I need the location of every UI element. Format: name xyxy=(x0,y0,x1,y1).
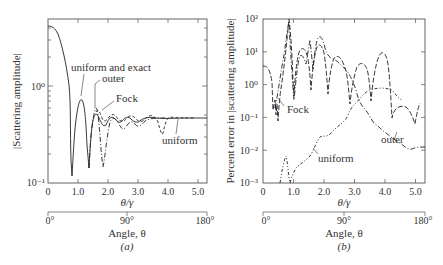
leader-line xyxy=(278,98,284,106)
y-tick-label: 10⁰ xyxy=(244,79,258,90)
leader-line xyxy=(102,101,114,110)
x-axis-title-a: θ/γ xyxy=(121,196,134,208)
angle-tick-label: 90° xyxy=(120,215,134,226)
panel-a: 0 1.0 2.0 3.0 4.0 5.0 θ/γ xyxy=(10,19,215,253)
x-tick-label: 2.0 xyxy=(318,186,331,197)
annotation-fock: Fock xyxy=(116,92,139,104)
x-tick-label: 4.0 xyxy=(379,186,392,197)
series-outer-error xyxy=(275,22,425,149)
x-tick-label: 4.0 xyxy=(162,186,175,197)
annotation-outer: outer xyxy=(102,72,125,84)
angle-tick-label: 180° xyxy=(414,215,433,226)
angle-axis-title-b: Angle, θ xyxy=(325,227,363,239)
y-tick-label: 10⁻² xyxy=(240,145,258,156)
x-tick-label: 3.0 xyxy=(132,186,145,197)
y-axis-title-a: |Scattering amplitude| xyxy=(10,53,22,149)
x-tick-label: 2.0 xyxy=(102,186,115,197)
x-ticks-b xyxy=(294,19,416,183)
y-tick-label: 10⁻¹ xyxy=(27,177,45,188)
angle-tick-label: 0° xyxy=(46,215,55,226)
series-fock xyxy=(96,110,195,134)
angle-axis-title-a: Angle, θ xyxy=(108,227,146,239)
panel-label-a: (a) xyxy=(121,240,134,253)
panel-label-b: (b) xyxy=(338,240,351,253)
x-tick-label: 0 xyxy=(46,186,51,197)
annotation-uniform: uniform xyxy=(162,134,198,146)
annotation-fock: Fock xyxy=(287,103,310,115)
x-tick-label: 5.0 xyxy=(409,186,422,197)
leader-line xyxy=(95,80,100,84)
angle-tick-label: 0° xyxy=(262,215,271,226)
angle-tick-label: 180° xyxy=(196,215,215,226)
leader-line xyxy=(313,148,318,154)
annotation-outer: outer xyxy=(381,133,404,145)
panel-b: 0 1.0 2.0 3.0 4.0 5.0 θ/γ 10² 10¹ 10⁰ 10… xyxy=(224,13,433,253)
x-tick-label: 1.0 xyxy=(287,186,300,197)
leader-line xyxy=(176,119,178,134)
x-axis-title-b: θ/γ xyxy=(338,196,351,208)
y-tick-label: 10⁰ xyxy=(31,81,45,92)
figure: 0 1.0 2.0 3.0 4.0 5.0 θ/γ xyxy=(0,0,443,265)
x-ticks-a xyxy=(78,19,198,183)
angle-tick-label: 90° xyxy=(337,215,351,226)
x-tick-label: 1.0 xyxy=(72,186,85,197)
y-tick-label: 10¹ xyxy=(245,46,258,57)
y-axis-title-b: Percent error in |scattering amplitude| xyxy=(224,18,236,183)
y-tick-label: 10² xyxy=(245,13,258,24)
y-tick-label: 10⁻¹ xyxy=(240,112,258,123)
y-tick-label: 10⁻³ xyxy=(240,177,258,188)
x-tick-label: 5.0 xyxy=(192,186,205,197)
x-tick-label: 0 xyxy=(261,186,266,197)
leader-line xyxy=(81,74,84,96)
annotation-uniform: uniform xyxy=(318,152,354,164)
